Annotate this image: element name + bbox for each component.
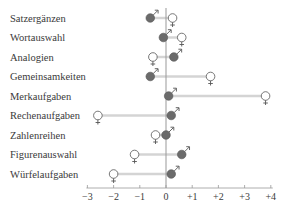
female-marker (261, 92, 270, 105)
x-tick-label: +2 (213, 191, 224, 202)
category-labels: SatzergänzenWortauswahlAnalogienGemeinsa… (10, 13, 87, 180)
female-marker (168, 14, 177, 27)
dumbbell-chart: SatzergänzenWortauswahlAnalogienGemeinsa… (0, 0, 290, 210)
male-marker (167, 108, 179, 120)
x-tick-label: +1 (187, 191, 198, 202)
male-marker (162, 127, 174, 139)
category-label: Gemeinsamkeiten (10, 71, 87, 82)
x-tick-label: +4 (265, 191, 276, 202)
x-tick-label: +3 (239, 191, 250, 202)
x-axis: −3−2−10+1+2+3+4 (82, 185, 276, 202)
x-tick-label: −3 (82, 191, 93, 202)
female-marker (177, 33, 186, 46)
category-label: Satzergänzen (10, 13, 67, 24)
x-tick-label: 0 (164, 191, 169, 202)
male-marker (146, 10, 158, 22)
male-marker (146, 69, 158, 81)
category-label: Zahlenreihen (10, 130, 66, 141)
female-marker (151, 131, 160, 144)
category-label: Rechenaufgaben (10, 110, 81, 121)
x-tick-label: −2 (108, 191, 119, 202)
category-label: Wortauswahl (10, 32, 65, 43)
x-tick-label: −1 (134, 191, 145, 202)
male-marker (170, 49, 182, 61)
category-label: Würfelaufgaben (10, 169, 79, 180)
female-marker (206, 72, 215, 85)
category-label: Figurenauswahl (10, 149, 77, 160)
female-marker (130, 150, 139, 163)
female-marker (109, 170, 118, 183)
male-marker (159, 30, 171, 42)
male-marker (167, 166, 179, 178)
category-label: Analogien (10, 52, 54, 63)
female-marker (149, 53, 158, 66)
category-label: Merkaufgaben (10, 91, 72, 102)
male-marker (177, 147, 189, 159)
female-marker (94, 111, 103, 124)
